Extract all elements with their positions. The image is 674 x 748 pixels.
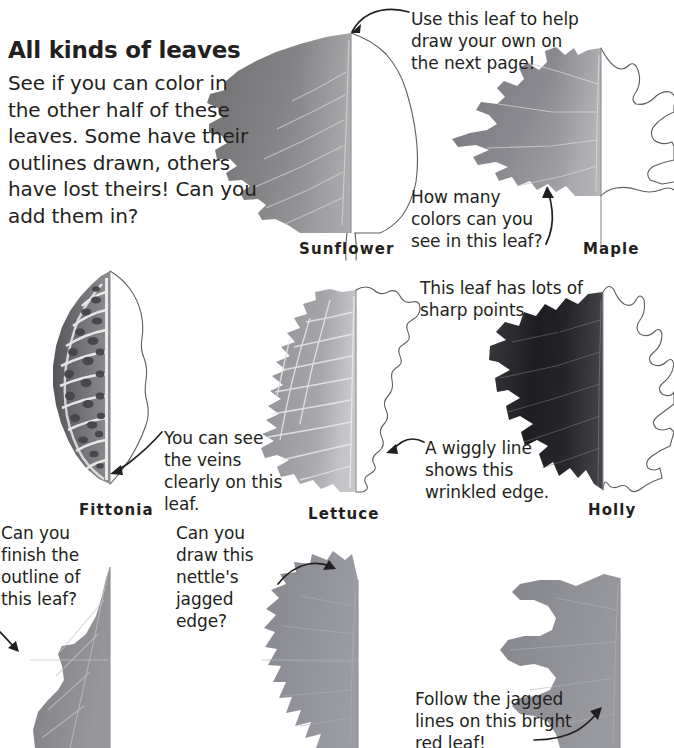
species-label-sunflower: Sunflower xyxy=(299,240,394,258)
arrow-to-sunflower xyxy=(351,9,409,33)
annotation-lettuce: A wiggly line shows this wrinkled edge. xyxy=(425,437,561,503)
annotation-holly: This leaf has lots of sharp points. xyxy=(420,277,588,321)
annotation-maple: How many colors can you see in this leaf… xyxy=(411,186,546,252)
intro-paragraph: See if you can color in the other half o… xyxy=(8,70,260,229)
arrow-to-fittonia xyxy=(110,432,162,475)
page-title: All kinds of leaves xyxy=(8,37,241,63)
arrow-to-bottom-left-leaf xyxy=(0,628,19,652)
annotation-bottom-left: Can you finish the outline of this leaf? xyxy=(1,522,91,610)
species-label-fittonia: Fittonia xyxy=(79,501,154,519)
holly-outline xyxy=(603,286,674,491)
arrow-to-lettuce xyxy=(386,439,424,454)
fittonia-outline xyxy=(110,271,148,484)
annotation-sunflower: Use this leaf to help draw your own on t… xyxy=(411,8,591,74)
sunflower-outline xyxy=(346,33,418,260)
species-label-maple: Maple xyxy=(583,240,640,258)
leaf-fittonia-photo xyxy=(53,271,110,484)
worksheet-page: All kinds of leaves See if you can color… xyxy=(0,0,674,748)
annotation-fittonia: You can see the veins clearly on this le… xyxy=(164,427,292,515)
annotation-nettle: Can you draw this nettle's jagged edge? xyxy=(176,522,288,632)
annotation-red-oak: Follow the jagged lines on this bright r… xyxy=(415,688,575,748)
maple-outline xyxy=(601,48,674,252)
species-label-holly: Holly xyxy=(588,501,636,519)
lettuce-outline xyxy=(356,287,420,492)
species-label-lettuce: Lettuce xyxy=(308,505,380,523)
